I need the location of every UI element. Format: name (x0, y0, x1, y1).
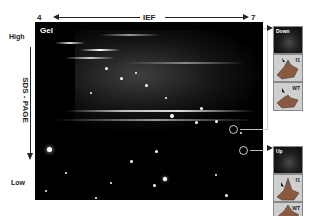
protein-spot (170, 114, 174, 118)
protein-streak (65, 110, 255, 112)
gel-image: Gel (35, 22, 263, 200)
ief-axis-max-label: 7 (251, 13, 255, 22)
protein-spot (165, 97, 167, 99)
protein-spot (47, 147, 52, 152)
protein-spot (163, 177, 167, 181)
protein-spot (240, 132, 242, 134)
down-leader-line (240, 129, 264, 130)
protein-spot (65, 172, 67, 174)
protein-haze (75, 30, 260, 130)
up-inset-gel: Up (273, 146, 303, 174)
protein-spot (155, 150, 158, 153)
f1-label: f1 (296, 177, 300, 183)
ief-axis-min-label: 4 (37, 13, 41, 22)
protein-spot (215, 174, 217, 176)
down-wt-3d-plot: WT (273, 82, 303, 111)
protein-spot (195, 121, 198, 124)
wt-label: WT (292, 205, 300, 211)
protein-streak (80, 49, 120, 51)
protein-spot (200, 107, 203, 110)
protein-spot (135, 72, 137, 74)
protein-streak (55, 119, 255, 121)
up-f1-3d-plot: f1 (273, 174, 303, 202)
protein-spot (110, 182, 112, 184)
protein-streak (65, 57, 115, 59)
sds-arrow-line (30, 47, 31, 155)
protein-spot (130, 160, 133, 163)
sds-axis-low-label: Low (11, 179, 25, 186)
protein-spot (45, 190, 47, 192)
protein-spot (95, 197, 97, 199)
ief-arrow-left-line (55, 17, 140, 18)
up-wt-3d-plot: WT (273, 202, 303, 216)
protein-spot (225, 194, 228, 197)
protein-spot (145, 84, 148, 87)
up-label: Up (276, 148, 283, 154)
arrow-down-icon (27, 153, 33, 160)
down-bracket (263, 28, 268, 130)
sds-axis-title: SDS - PAGE (21, 77, 30, 123)
protein-streak (100, 34, 160, 36)
ief-axis-title: IEF (143, 13, 155, 22)
up-leader-line (250, 150, 264, 151)
arrow-left-icon (53, 14, 59, 20)
protein-spot (90, 92, 92, 94)
down-label: Down (276, 28, 290, 34)
down-f1-3d-plot: f1 (273, 54, 303, 82)
down-inset-gel: Down (273, 26, 303, 54)
protein-spot (120, 77, 123, 80)
gel-label: Gel (40, 26, 53, 35)
protein-streak (55, 42, 85, 44)
protein-spot (215, 120, 218, 123)
protein-spot (105, 67, 108, 70)
down-spot-marker (229, 125, 238, 134)
sds-axis-high-label: High (9, 33, 25, 40)
up-spot-marker (239, 146, 248, 155)
ief-arrow-right-line (165, 17, 245, 18)
f1-label: f1 (296, 57, 300, 63)
protein-spot (153, 184, 156, 187)
arrow-right-icon (243, 14, 249, 20)
protein-streak (125, 62, 245, 64)
wt-label: WT (292, 85, 300, 91)
